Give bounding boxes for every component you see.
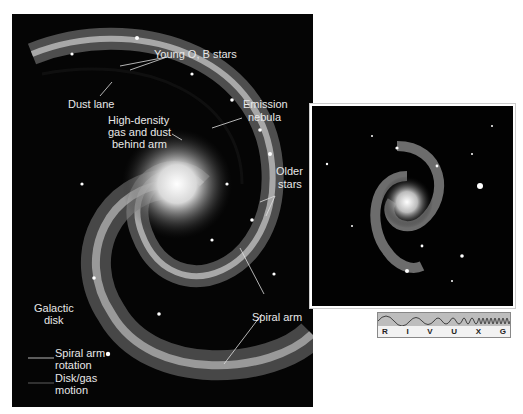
- disk-gas-motion-label-line1: Disk/gas: [55, 372, 97, 384]
- galaxy-photo: [312, 106, 513, 306]
- spiral-arm-label: Spiral arm: [252, 311, 302, 323]
- band-u: U: [451, 326, 457, 337]
- high-density-label-line2: gas and dust: [108, 126, 171, 138]
- band-g: G: [500, 326, 506, 337]
- wave-graphic: [378, 313, 510, 326]
- electromagnetic-spectrum-bar: R I V U X G: [377, 312, 511, 338]
- older-stars-label-line1: Older: [276, 165, 303, 177]
- spiral-arm-rotation-label-line1: Spiral arm: [55, 347, 105, 359]
- spectrum-band-labels: R I V U X G: [378, 326, 510, 337]
- high-density-label-line3: behind arm: [112, 138, 167, 150]
- galaxy-photo-inset: [310, 104, 515, 308]
- emission-nebula-label-line1: Emission: [243, 98, 288, 110]
- band-x: X: [476, 326, 481, 337]
- galactic-disk-label-line1: Galactic: [34, 302, 74, 314]
- galactic-disk-label-line2: disk: [44, 314, 64, 326]
- young-ob-stars-label: Young O, B stars: [154, 48, 237, 60]
- band-r: R: [382, 326, 388, 337]
- emission-nebula-label-line2: nebula: [248, 111, 281, 123]
- older-stars-label-line2: stars: [278, 178, 302, 190]
- spiral-arm-rotation-label-line2: rotation: [55, 359, 92, 371]
- high-density-label-line1: High-density: [108, 114, 169, 126]
- dust-lane-label: Dust lane: [68, 98, 114, 110]
- spiral-galaxy-diagram: Young O, B stars Dust lane High-density …: [12, 14, 313, 407]
- disk-gas-motion-label-line2: motion: [55, 384, 88, 396]
- band-v: V: [427, 326, 432, 337]
- band-i: I: [406, 326, 408, 337]
